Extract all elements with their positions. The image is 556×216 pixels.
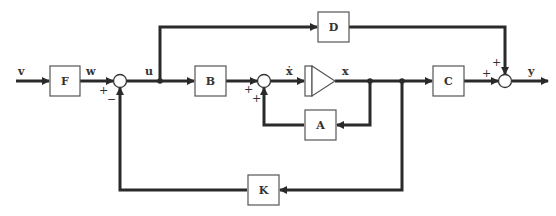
junction-dot-u bbox=[157, 78, 163, 84]
wire-x-to-a bbox=[337, 81, 370, 125]
block-k-label: K bbox=[259, 184, 269, 197]
block-f-label: F bbox=[61, 75, 69, 88]
wire-a-to-sum2 bbox=[264, 88, 304, 125]
block-a-label: A bbox=[315, 119, 325, 132]
block-c-label: C bbox=[444, 75, 453, 88]
block-b-label: B bbox=[206, 75, 215, 88]
sum2-sign-plus-a: + bbox=[252, 92, 261, 105]
signal-label-v: v bbox=[17, 65, 25, 78]
signal-label-y: y bbox=[527, 65, 535, 78]
junction-dot-x-k bbox=[399, 78, 405, 84]
sum1-sign-minus: − bbox=[107, 93, 116, 106]
signal-label-w: w bbox=[85, 65, 96, 78]
signal-label-x: x bbox=[342, 65, 349, 78]
summing-junction-1 bbox=[114, 75, 127, 88]
junction-dot-x-a bbox=[367, 78, 373, 84]
wires bbox=[16, 27, 548, 190]
block-c: C bbox=[433, 66, 464, 96]
signal-label-u: u bbox=[145, 65, 153, 78]
block-b: B bbox=[195, 66, 226, 96]
sum3-sign-plus-d: + bbox=[492, 56, 501, 69]
block-a: A bbox=[305, 110, 336, 140]
summing-junction-2 bbox=[258, 75, 271, 88]
integrator-icon bbox=[305, 66, 335, 96]
block-k: K bbox=[248, 175, 279, 205]
summing-junction-3 bbox=[499, 75, 512, 88]
wire-k-to-sum1 bbox=[120, 88, 247, 190]
sum3-sign-plus-c: + bbox=[482, 67, 491, 80]
wire-u-to-d bbox=[160, 27, 317, 81]
wire-x-to-k bbox=[280, 81, 402, 190]
block-d-label: D bbox=[329, 21, 339, 34]
block-diagram: F B D A C K v w u ẋ x y + − + + + + bbox=[0, 0, 556, 216]
block-f: F bbox=[50, 66, 80, 96]
signal-label-xdot: ẋ bbox=[286, 65, 293, 78]
block-d: D bbox=[318, 12, 349, 42]
